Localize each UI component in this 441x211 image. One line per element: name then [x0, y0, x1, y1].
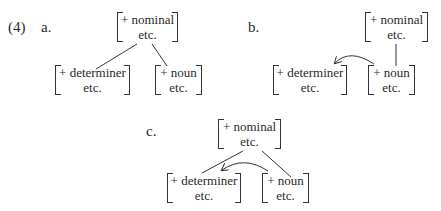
c-determiner-node: + determiner etc.: [167, 173, 241, 203]
a-determiner-node: + determiner etc.: [55, 65, 130, 95]
a-branch-right: [152, 44, 167, 66]
b-arrow: [335, 56, 374, 64]
a-nominal-node: + nominal etc.: [117, 12, 178, 42]
b-nominal-node: + nominal etc.: [365, 12, 428, 42]
b-noun-node: + noun etc.: [368, 65, 415, 95]
c-noun-node: + noun etc.: [262, 173, 309, 203]
c-arrow: [222, 163, 268, 171]
b-determiner-node: + determiner etc.: [273, 65, 347, 95]
a-noun-node: + noun etc.: [155, 65, 202, 95]
c-nominal-node: + nominal etc.: [218, 119, 281, 149]
